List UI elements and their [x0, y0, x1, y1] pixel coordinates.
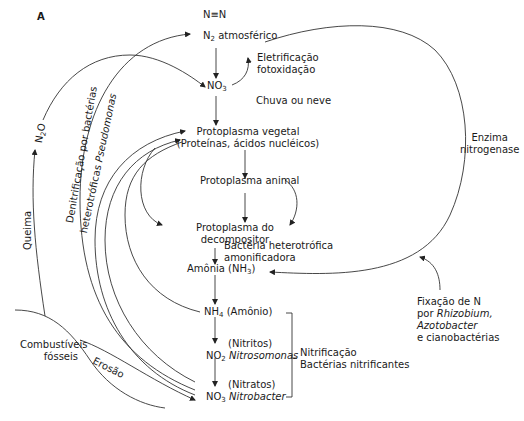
label-bacteria-amonificadora: Bactéria heterotróficaamonificadora	[224, 240, 333, 264]
node-nh4-amonio: NH4 (Amônio)	[204, 306, 272, 318]
label-nitrificacao: NitrificaçãoBactérias nitrificantes	[300, 347, 409, 371]
label-nitratos: (Nitratos)	[228, 379, 275, 391]
arrow-vegetal-to-decomp	[141, 148, 162, 225]
arrow-n2o-to-no3	[43, 55, 205, 120]
node-protoplasma-vegetal: Protoplasma vegetal(Proteínas, ácidos nu…	[168, 126, 328, 150]
label-chuva: Chuva ou neve	[256, 95, 331, 107]
label-nitritos: (Nitritos)	[228, 338, 272, 350]
arrow-no3-eletrificacao	[232, 58, 248, 85]
node-triple-bond: N≡N	[203, 9, 226, 21]
arrow-no3-to-vegetal-1	[95, 131, 195, 395]
node-no3-bottom: NO3 Nitrobacter	[206, 391, 286, 403]
arrow-no3-to-vegetal-2	[105, 140, 195, 382]
node-amonia: Amônia (NH3)	[187, 263, 255, 275]
arrow-queima	[33, 150, 45, 316]
label-enzima-nitrogenase: Enzimanitrogenase	[460, 132, 519, 156]
panel-label: A	[37, 11, 45, 23]
node-n2-atmosferico: N2 atmosférico	[203, 30, 277, 42]
label-queima: Queima	[22, 211, 34, 250]
node-no3-top: NO3	[207, 80, 227, 92]
label-fixacao: Fixação de N por Rhizobium, Azotobacter …	[417, 296, 499, 344]
node-no2: NO2 Nitrosomonas	[206, 350, 298, 362]
arrow-fixacao	[420, 257, 440, 290]
node-combustiveis-fosseis: Combustíveisfósseis	[20, 339, 78, 363]
label-eletrificacao: Eletrificaçãofotoxidação	[257, 52, 319, 76]
node-protoplasma-animal: Protoplasma animal	[200, 175, 299, 187]
